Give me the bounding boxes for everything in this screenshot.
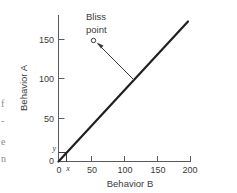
y-tick-label-150: 150 — [39, 35, 54, 45]
x-tick-label-200: 200 — [182, 165, 197, 175]
leader-line — [98, 44, 134, 80]
bliss-point-label-line-2: point — [86, 24, 107, 35]
bliss-point-label-line-1: Bliss — [86, 11, 106, 22]
x-axis-title: Behavior B — [107, 178, 153, 189]
margin-text-line-1: f — [1, 98, 5, 109]
bliss-point-chart: f - e n 150 100 50 0 — [0, 0, 237, 193]
margin-text-fragments: f - e n — [1, 98, 6, 164]
bliss-point-marker — [91, 38, 95, 42]
y-reference-label: y — [51, 144, 56, 153]
y-axis-ticks — [59, 40, 65, 119]
x-tick-label-0: 0 — [56, 165, 61, 175]
y-tick-label-50: 50 — [44, 114, 54, 124]
y-tick-label-0: 0 — [49, 156, 54, 166]
x-tick-label-150: 150 — [150, 165, 165, 175]
y-axis-title: Behavior A — [18, 64, 29, 111]
margin-text-line-4: n — [1, 153, 6, 164]
margin-text-line-2: - — [1, 115, 4, 126]
x-tick-label-50: 50 — [87, 165, 97, 175]
x-tick-label-100: 100 — [117, 165, 132, 175]
margin-text-line-3: e — [1, 136, 6, 147]
bliss-point-leader-arrow — [97, 43, 135, 81]
x-axis-ticks — [92, 156, 191, 162]
x-reference-label: x — [65, 164, 70, 173]
leader-arrowhead-icon — [97, 43, 104, 49]
bliss-point-label: Bliss point — [86, 11, 107, 35]
x-axis-tick-labels: 0 50 100 150 200 — [56, 165, 197, 175]
behavior-ratio-line — [59, 22, 189, 162]
y-tick-label-100: 100 — [39, 74, 54, 84]
figure-container: f - e n 150 100 50 0 — [0, 0, 237, 193]
